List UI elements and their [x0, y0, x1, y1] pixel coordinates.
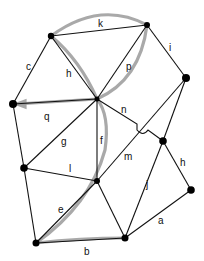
- edge-dg: [13, 104, 24, 168]
- edge-h-lower: [163, 141, 191, 190]
- edge-i: [147, 25, 186, 78]
- vertex-f: [159, 137, 167, 145]
- edge-g: [24, 99, 97, 168]
- vertex-d: [9, 100, 17, 108]
- label-a: a: [158, 215, 164, 226]
- label-k: k: [98, 18, 104, 29]
- vertex-c: [182, 74, 190, 82]
- label-b: b: [84, 246, 90, 257]
- label-l: l: [69, 163, 71, 174]
- label-c: c: [26, 61, 31, 72]
- edge-l: [24, 168, 97, 181]
- vertex-i: [187, 186, 195, 194]
- label-q: q: [44, 111, 50, 122]
- vertex-h: [94, 178, 100, 184]
- label-h-lower: h: [180, 157, 186, 168]
- label-g: g: [61, 136, 67, 147]
- edge-gj: [24, 168, 36, 243]
- edge-c: [13, 36, 51, 104]
- edge-hk: [97, 181, 125, 238]
- highlighted-path: [17, 15, 147, 243]
- vertex-g: [20, 164, 28, 172]
- vertex-k: [122, 235, 129, 242]
- label-p: p: [126, 61, 132, 72]
- vertex-b: [144, 22, 150, 28]
- edge-p: [97, 25, 147, 99]
- vertex-j: [33, 240, 40, 247]
- label-j: j: [145, 179, 148, 190]
- edges: [13, 25, 191, 243]
- label-i: i: [169, 42, 171, 53]
- edge-cf: [163, 78, 186, 141]
- label-m: m: [124, 151, 132, 162]
- vertex-e: [95, 97, 100, 102]
- edge-e: [36, 181, 97, 243]
- label-e: e: [58, 204, 64, 215]
- edge-h-upper: [51, 36, 97, 99]
- label-f: f: [100, 135, 103, 146]
- label-n: n: [121, 104, 127, 115]
- vertex-a: [48, 33, 54, 39]
- label-h-upper: h: [66, 68, 72, 79]
- graph-diagram: k c h p i q n m f g l e b j h a: [0, 0, 204, 261]
